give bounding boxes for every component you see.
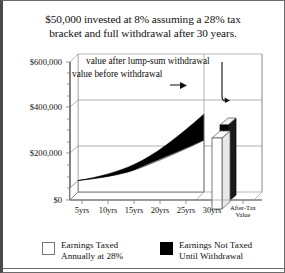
- plot-area: $600,000 $400,000 $200,000 $0 5yrs 10yrs…: [0, 52, 285, 232]
- chart-title: $50,000 invested at 8% assuming a 28% ta…: [14, 12, 272, 40]
- legend-label-taxed-annually: Earnings Taxed Annually at 28%: [61, 240, 123, 261]
- legend-label-tax-deferred-line-1: Earnings Not Taxed: [179, 240, 252, 251]
- y-axis-minor-ticks: [66, 62, 70, 200]
- legend-label-taxed-annually-line-1: Earnings Taxed: [61, 240, 123, 251]
- chart-title-line-2: bracket and full withdrawal after 30 yea…: [14, 26, 272, 40]
- bar-after-tax-annual: [212, 131, 230, 209]
- legend-label-tax-deferred-line-2: Until Withdrawal: [179, 251, 252, 262]
- legend-label-tax-deferred: Earnings Not Taxed Until Withdrawal: [179, 240, 252, 261]
- chart-figure: $50,000 invested at 8% assuming a 28% ta…: [0, 0, 285, 273]
- x-tick-after-tax-line-2: Value: [235, 211, 250, 218]
- legend-item-taxed-annually: Earnings Taxed Annually at 28%: [42, 240, 123, 261]
- legend-swatch-solid-icon: [160, 242, 173, 255]
- y-tick-label-600000: $600,000: [2, 57, 62, 67]
- y-tick-label-400000: $400,000: [2, 102, 62, 112]
- legend-item-tax-deferred: Earnings Not Taxed Until Withdrawal: [160, 240, 252, 261]
- x-tick-label-after-tax-value: After-Tax Value: [222, 204, 264, 219]
- chart-title-line-1: $50,000 invested at 8% assuming a 28% ta…: [14, 12, 272, 26]
- annotation-before-withdrawal: value before withdrawal: [72, 69, 162, 79]
- annotation-after-withdrawal: value after lump-sum withdrawal: [86, 56, 210, 66]
- legend-label-taxed-annually-line-2: Annually at 28%: [61, 251, 123, 262]
- chart-legend: Earnings Taxed Annually at 28% Earnings …: [0, 236, 285, 270]
- legend-swatch-open-icon: [42, 242, 55, 255]
- x-tick-after-tax-line-1: After-Tax: [230, 204, 256, 211]
- y-tick-label-0: $0: [2, 195, 62, 205]
- y-tick-label-200000: $200,000: [2, 148, 62, 158]
- legend-bottom-rule: [3, 268, 284, 269]
